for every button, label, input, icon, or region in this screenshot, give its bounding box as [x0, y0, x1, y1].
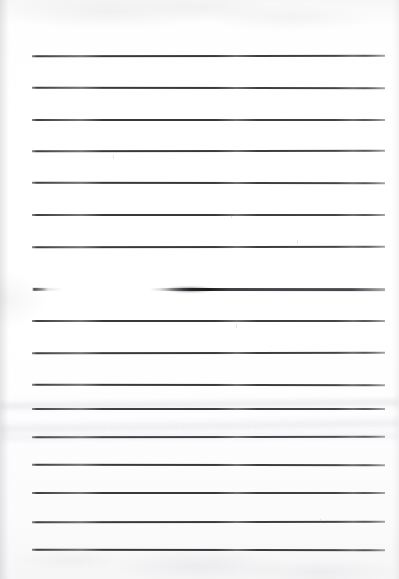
- ruled-line: [32, 150, 385, 152]
- ruled-line: [32, 320, 385, 322]
- ruled-line-faded: [32, 288, 385, 291]
- ruled-line: [32, 214, 385, 216]
- ruled-line: [32, 352, 385, 354]
- ruled-line: [32, 408, 385, 410]
- ruled-line: [32, 384, 385, 386]
- ruled-line: [32, 549, 385, 551]
- ruled-line: [32, 436, 385, 438]
- ruled-line: [32, 246, 385, 248]
- ruled-line: [32, 119, 385, 121]
- ruled-line: [32, 55, 385, 57]
- ruled-line: [32, 87, 385, 89]
- ruled-line: [32, 521, 385, 523]
- scanned-page: [0, 0, 399, 579]
- ruled-line: [32, 182, 385, 184]
- ruled-line: [32, 492, 385, 494]
- ruled-line: [32, 464, 385, 466]
